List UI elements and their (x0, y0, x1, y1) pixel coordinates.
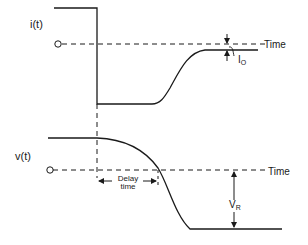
current-time-axis-label: Time (264, 40, 286, 50)
vr-subscript: R (236, 204, 241, 211)
voltage-waveform (48, 138, 282, 229)
current-label: i(t) (30, 19, 43, 30)
vr-symbol: V (229, 199, 236, 210)
waveform-drawing (0, 0, 308, 245)
io-annotation: IO (238, 55, 246, 66)
vr-annotation: VR (229, 200, 241, 211)
voltage-zero-marker (47, 167, 53, 173)
current-zero-marker (55, 41, 61, 47)
voltage-time-axis-label: Time (268, 167, 290, 177)
io-leader (229, 47, 234, 56)
voltage-label: v(t) (15, 151, 31, 162)
delay-time-label: Delay time (111, 175, 145, 191)
reverse-recovery-diagram: i(t) Time IO v(t) Time VR Delay time (0, 0, 308, 245)
delay-label-line2: time (111, 183, 145, 191)
io-subscript: O (241, 59, 246, 66)
